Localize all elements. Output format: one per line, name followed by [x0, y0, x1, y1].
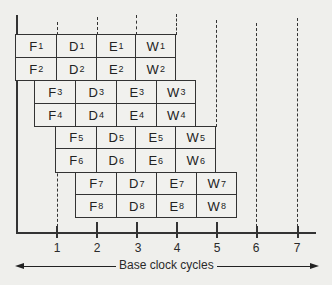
cell-W3: W3 — [156, 80, 196, 104]
cell-E5: E5 — [135, 126, 176, 149]
cycle-boundary-4 — [176, 14, 177, 35]
cell-E3: E3 — [116, 80, 157, 104]
tick-mark — [56, 226, 58, 238]
cell-D6: D6 — [96, 148, 136, 173]
cell-E2: E2 — [96, 57, 136, 81]
cycle-boundary-6 — [256, 23, 257, 232]
cell-F3: F3 — [34, 80, 76, 104]
tick-mark — [216, 222, 218, 238]
cell-F5: F5 — [55, 126, 97, 149]
cell-W7: W7 — [196, 172, 237, 195]
cell-F1: F1 — [15, 34, 57, 58]
cycle-boundary-5 — [216, 20, 217, 127]
tick-label-7: 7 — [287, 241, 307, 255]
tick-label-1: 1 — [47, 241, 67, 255]
cell-E1: E1 — [96, 34, 136, 58]
tick-mark — [256, 226, 258, 238]
tick-mark — [176, 222, 178, 238]
cell-D8: D8 — [116, 194, 157, 218]
cell-D7: D7 — [116, 172, 157, 195]
cell-F6: F6 — [55, 148, 97, 173]
tick-mark — [136, 222, 138, 238]
pipeline-diagram: F1 D1 E1 W1 F2 D2 E2 W2 F3 D3 E3 W3 F4 D… — [0, 0, 332, 285]
cell-W6: W6 — [175, 148, 216, 173]
tick-mark — [297, 226, 299, 238]
cell-W2: W2 — [135, 57, 176, 81]
cell-W1: W1 — [135, 34, 176, 58]
tick-label-5: 5 — [207, 241, 227, 255]
cycle-boundary-7 — [297, 18, 298, 232]
cycle-boundary-2 — [97, 17, 98, 35]
cell-D1: D1 — [56, 34, 97, 58]
cell-W8: W8 — [196, 194, 237, 218]
tick-mark — [96, 222, 98, 238]
cell-E6: E6 — [135, 148, 176, 173]
arrow-right-icon — [310, 263, 319, 269]
cell-F4: F4 — [34, 103, 76, 127]
tick-label-2: 2 — [87, 241, 107, 255]
cell-W4: W4 — [156, 103, 196, 127]
cell-D4: D4 — [75, 103, 117, 127]
cell-F7: F7 — [75, 172, 117, 195]
tick-label-4: 4 — [167, 241, 187, 255]
x-axis-line — [16, 232, 316, 234]
tick-label-3: 3 — [128, 241, 148, 255]
cell-E7: E7 — [156, 172, 197, 195]
cell-E8: E8 — [156, 194, 197, 218]
cell-D2: D2 — [56, 57, 97, 81]
tick-label-6: 6 — [246, 241, 266, 255]
cell-W5: W5 — [175, 126, 216, 149]
x-axis-title: Base clock cycles — [116, 258, 217, 272]
cell-D3: D3 — [75, 80, 117, 104]
cell-E4: E4 — [116, 103, 157, 127]
cell-D5: D5 — [96, 126, 136, 149]
cycle-boundary-3 — [136, 15, 137, 35]
cell-F2: F2 — [15, 57, 57, 81]
cell-F8: F8 — [75, 194, 117, 218]
